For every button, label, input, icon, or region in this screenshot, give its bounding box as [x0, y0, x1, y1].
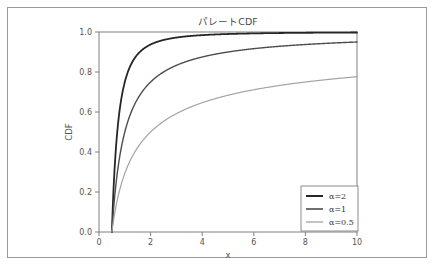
matplotlib-figure: 0.0 0.2 0.4 0.6 0.8 1.0 0 2 4 6 8 1: [0, 0, 435, 266]
legend-label-1: α=1: [329, 205, 346, 214]
y-tick-label-3: 0.6: [79, 108, 92, 117]
legend-label-0: α=2: [329, 192, 346, 201]
x-tick-label-1: 2: [148, 238, 153, 247]
x-tick-label-2: 4: [200, 238, 205, 247]
x-tick-label-3: 6: [251, 238, 256, 247]
x-tick-label-0: 0: [96, 238, 101, 247]
y-tick-label-0: 0.0: [79, 228, 92, 237]
chart-title: パレートCDF: [198, 16, 257, 27]
x-axis-ticks: 0 2 4 6 8 10: [96, 232, 362, 247]
x-tick-label-4: 8: [303, 238, 308, 247]
x-tick-label-5: 10: [352, 238, 362, 247]
y-axis-ticks: 0.0 0.2 0.4 0.6 0.8 1.0: [79, 28, 99, 237]
y-tick-label-1: 0.2: [79, 188, 92, 197]
y-tick-label-4: 0.8: [79, 68, 92, 77]
screenshot-root: 0.0 0.2 0.4 0.6 0.8 1.0 0 2 4 6 8 1: [0, 0, 435, 266]
x-axis-label: x: [225, 250, 230, 260]
chart-canvas: 0.0 0.2 0.4 0.6 0.8 1.0 0 2 4 6 8 1: [0, 0, 435, 266]
y-tick-label-2: 0.4: [79, 148, 92, 157]
legend-label-2: α=0.5: [329, 218, 354, 227]
y-axis-label: CDF: [64, 123, 74, 140]
y-tick-label-5: 1.0: [79, 28, 92, 37]
legend[interactable]: α=2 α=1 α=0.5: [301, 186, 358, 231]
